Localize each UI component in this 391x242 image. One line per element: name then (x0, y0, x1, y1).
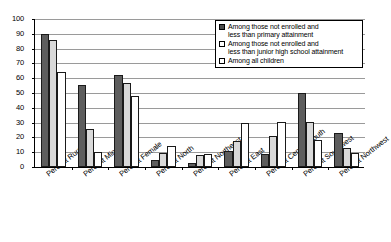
bar[interactable] (49, 40, 57, 167)
bar-group (108, 19, 145, 167)
bar[interactable] (261, 154, 269, 167)
y-tick-label: 100 (0, 15, 24, 23)
y-tick-mark (32, 167, 35, 168)
bar[interactable] (151, 160, 159, 167)
bar[interactable] (277, 122, 285, 167)
chart-legend: Among those not enrolled andless than pr… (215, 20, 363, 68)
y-tick-label: 90 (0, 30, 24, 38)
bar[interactable] (196, 155, 204, 167)
bar[interactable] (241, 123, 249, 167)
y-tick-label: 40 (0, 104, 24, 112)
x-tick-mark (182, 167, 183, 170)
bar[interactable] (298, 93, 306, 167)
legend-swatch-icon (219, 41, 225, 47)
bar[interactable] (123, 83, 131, 167)
bar[interactable] (233, 141, 241, 167)
bar[interactable] (334, 133, 342, 167)
bar[interactable] (343, 148, 351, 167)
y-tick-label: 70 (0, 59, 24, 67)
x-tick-mark (108, 167, 109, 170)
bar[interactable] (306, 122, 314, 167)
bar[interactable] (224, 151, 232, 167)
bar[interactable] (78, 85, 86, 167)
bar[interactable] (86, 129, 94, 167)
legend-item[interactable]: Among those not enrolled andless than pr… (219, 23, 360, 39)
bar[interactable] (131, 96, 139, 167)
bar[interactable] (114, 75, 122, 167)
bar-group (35, 19, 72, 167)
x-tick-mark (218, 167, 219, 170)
x-tick-mark (328, 167, 329, 170)
legend-item[interactable]: Among those not enrolled andless than ju… (219, 40, 360, 56)
legend-label: Among those not enrolled andless than pr… (228, 23, 319, 39)
bar[interactable] (159, 153, 167, 167)
y-tick-label: 0 (0, 163, 24, 171)
legend-item[interactable]: Among all children (219, 57, 360, 65)
bar[interactable] (167, 146, 175, 167)
bar[interactable] (269, 136, 277, 167)
bar[interactable] (314, 140, 322, 167)
x-tick-mark (292, 167, 293, 170)
bar[interactable] (351, 153, 359, 167)
bar-group (72, 19, 109, 167)
y-tick-label: 20 (0, 133, 24, 141)
bar[interactable] (94, 152, 102, 167)
y-tick-label: 80 (0, 45, 24, 53)
y-tick-label: 60 (0, 74, 24, 82)
y-tick-label: 10 (0, 148, 24, 156)
legend-label: Among those not enrolled andless than ju… (228, 40, 343, 56)
bar[interactable] (204, 154, 212, 167)
legend-swatch-icon (219, 58, 225, 64)
bar[interactable] (188, 163, 196, 167)
x-tick-mark (255, 167, 256, 170)
y-tick-label: 50 (0, 89, 24, 97)
x-tick-mark (72, 167, 73, 170)
x-tick-mark (145, 167, 146, 170)
y-tick-label: 30 (0, 119, 24, 127)
legend-swatch-icon (219, 24, 225, 30)
bar[interactable] (41, 34, 49, 167)
legend-label: Among all children (228, 57, 284, 65)
bar[interactable] (57, 72, 65, 167)
